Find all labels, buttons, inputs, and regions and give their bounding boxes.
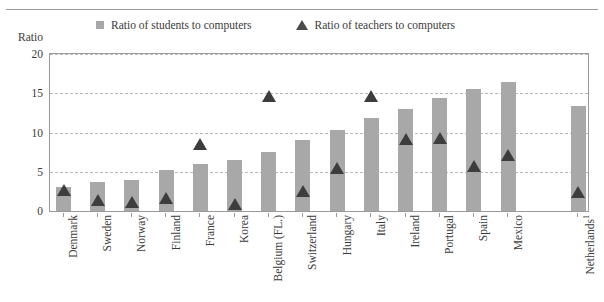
- x-tick-mark: [199, 213, 200, 217]
- x-tick-mark: [97, 213, 98, 217]
- x-axis-label-hungary: Hungary: [341, 215, 353, 255]
- x-tick-mark: [165, 213, 166, 217]
- triangle-swatch-icon: [296, 20, 308, 30]
- bar-ireland[interactable]: [398, 109, 413, 211]
- legend-label-teachers: Ratio of teachers to computers: [315, 19, 456, 31]
- bar-finland[interactable]: [159, 170, 174, 211]
- marker-mexico[interactable]: [501, 149, 515, 161]
- y-tick-label-20: 20: [32, 48, 44, 60]
- x-axis-label-italy: Italy: [375, 215, 387, 236]
- marker-denmark[interactable]: [57, 184, 71, 196]
- x-tick-mark: [63, 213, 64, 217]
- x-axis-label-netherlands: Netherlands1: [582, 215, 596, 275]
- marker-italy[interactable]: [364, 90, 378, 102]
- x-axis-label-switzerland: Switzerland: [306, 215, 318, 270]
- x-axis-label-portugal: Portugal: [443, 215, 455, 254]
- marker-switzerland[interactable]: [296, 185, 310, 197]
- x-axis-label-belgium-fl: Belgium (FL.): [272, 215, 284, 281]
- marker-ireland[interactable]: [399, 133, 413, 145]
- y-tick-label-5: 5: [37, 166, 43, 178]
- clipped-header-text: [0, 0, 604, 9]
- marker-norway[interactable]: [125, 196, 139, 208]
- marker-spain[interactable]: [467, 160, 481, 172]
- bar-belgium-fl[interactable]: [261, 152, 276, 211]
- legend-item-students: Ratio of students to computers: [96, 19, 252, 31]
- marker-finland[interactable]: [159, 192, 173, 204]
- x-axis-label-denmark: Denmark: [67, 215, 79, 258]
- legend-item-teachers: Ratio of teachers to computers: [296, 19, 456, 31]
- header-rule: [6, 9, 598, 10]
- x-tick-mark: [370, 213, 371, 217]
- footnote-marker: 1: [582, 215, 591, 219]
- x-axis-label-korea: Korea: [238, 215, 250, 243]
- x-tick-mark: [405, 213, 406, 217]
- y-tick-label-0: 0: [37, 205, 43, 217]
- bar-portugal[interactable]: [432, 98, 447, 211]
- marker-belgium-fl[interactable]: [262, 90, 276, 102]
- x-axis-label-mexico: Mexico: [512, 215, 524, 250]
- x-tick-mark: [268, 213, 269, 217]
- x-axis-label-norway: Norway: [135, 215, 147, 252]
- x-tick-mark: [336, 213, 337, 217]
- x-tick-mark: [234, 213, 235, 217]
- bar-france[interactable]: [193, 164, 208, 211]
- marker-hungary[interactable]: [330, 162, 344, 174]
- x-axis-label-france: France: [204, 215, 216, 246]
- marker-netherlands[interactable]: [571, 186, 585, 198]
- y-tick-label-10: 10: [32, 127, 44, 139]
- x-axis-label-sweden: Sweden: [101, 215, 113, 251]
- gridline-20: [50, 54, 588, 55]
- plot-area: 05101520: [49, 53, 589, 212]
- square-swatch-icon: [96, 21, 104, 29]
- x-axis-label-ireland: Ireland: [409, 215, 421, 248]
- bar-mexico[interactable]: [501, 82, 516, 211]
- legend-label-students: Ratio of students to computers: [111, 19, 252, 31]
- x-tick-mark: [507, 213, 508, 217]
- marker-portugal[interactable]: [433, 132, 447, 144]
- x-tick-mark: [131, 213, 132, 217]
- marker-sweden[interactable]: [91, 194, 105, 206]
- x-axis-labels: DenmarkSwedenNorwayFinlandFranceKoreaBel…: [49, 213, 589, 301]
- x-axis-label-spain: Spain: [477, 215, 489, 241]
- y-axis-title: Ratio: [18, 31, 43, 43]
- bar-spain[interactable]: [466, 89, 481, 211]
- x-tick-mark: [473, 213, 474, 217]
- x-axis-label-finland: Finland: [170, 215, 182, 250]
- bar-switzerland[interactable]: [295, 140, 310, 211]
- y-tick-label-15: 15: [32, 87, 44, 99]
- chart-figure: Ratio of students to computers Ratio of …: [0, 0, 604, 302]
- x-tick-mark: [439, 213, 440, 217]
- marker-korea[interactable]: [228, 198, 242, 210]
- marker-france[interactable]: [193, 138, 207, 150]
- x-tick-mark: [577, 213, 578, 217]
- chart-legend: Ratio of students to computers Ratio of …: [96, 19, 455, 31]
- bar-italy[interactable]: [364, 118, 379, 211]
- x-tick-mark: [302, 213, 303, 217]
